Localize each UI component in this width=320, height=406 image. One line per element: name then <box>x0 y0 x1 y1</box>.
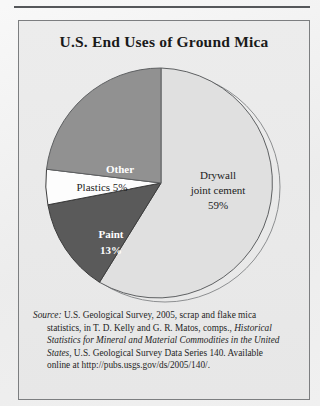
page-title: U.S. End Uses of Ground Mica <box>19 33 309 51</box>
figure-panel: U.S. End Uses of Ground Mica Drywall joi… <box>18 20 310 400</box>
source-line-4a: States <box>47 348 69 358</box>
pie-label-drywall-value: 59% <box>208 199 228 211</box>
pie-label-plastics: Plastics 5% <box>76 181 127 193</box>
pie-chart-svg: Drywall joint cement 59% Other 23% Plast… <box>19 63 309 303</box>
pie-slice-other[interactable] <box>47 68 162 183</box>
pie-label-other-line1: Other <box>106 163 134 175</box>
source-line-3: Statistics for Mineral and Material Comm… <box>33 334 296 347</box>
source-line-5: online at http://pubs.usgs.gov/ds/2005/1… <box>33 359 296 372</box>
pie-label-paint-value: 13% <box>100 244 122 256</box>
page-background: U.S. End Uses of Ground Mica Drywall joi… <box>0 0 320 406</box>
source-line-2a: statistics, in T. D. Kelly and G. R. Mat… <box>47 323 234 333</box>
source-note: Source: U.S. Geological Survey, 2005, sc… <box>33 309 296 372</box>
pie-label-paint-line1: Paint <box>98 228 123 240</box>
pie-chart: Drywall joint cement 59% Other 23% Plast… <box>19 63 309 303</box>
pie-label-drywall-line2: joint cement <box>190 184 246 196</box>
source-line-4b: , U.S. Geological Survey Data Series 140… <box>69 348 263 358</box>
pie-label-drywall-line1: Drywall <box>200 169 236 181</box>
source-line-1: U.S. Geological Survey, 2005, scrap and … <box>64 310 256 320</box>
source-label: Source: <box>33 310 62 320</box>
source-line-2b: Historical <box>234 323 272 333</box>
header-rule <box>14 6 310 8</box>
